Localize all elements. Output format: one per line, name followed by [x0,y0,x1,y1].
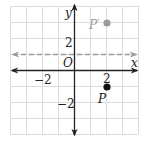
tick-x-neg2: −2 [34,73,52,87]
tick-y-neg2: −2 [57,97,75,111]
point-p [103,83,110,90]
point-p-label: P [97,92,107,106]
point-p-prime-label: P′ [88,18,100,32]
tick-y-2: 2 [65,36,73,50]
origin-label: O [63,56,73,70]
x-axis-label: x [131,56,138,70]
point-p-prime [103,19,110,26]
coordinate-plane: y x O −2 2 2 −2 P′ P [0,0,148,141]
y-axis-label: y [64,6,72,20]
